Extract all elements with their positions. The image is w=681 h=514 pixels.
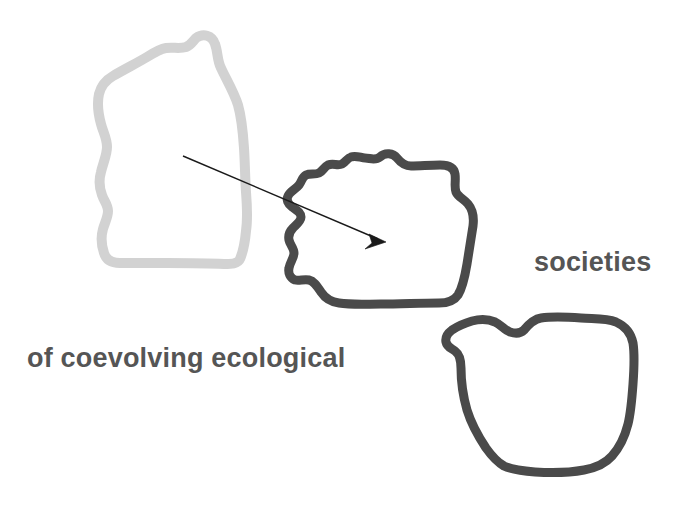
transition-arrow-head [365, 234, 386, 249]
caption-right: societies [534, 249, 651, 276]
light-blob-outline [98, 35, 247, 264]
dark-blob-center-outline [287, 154, 473, 305]
dark-blob-lower-right-outline [446, 317, 634, 473]
caption-left: of coevolving ecological [27, 345, 345, 372]
figure-canvas: of coevolving ecological societies [0, 0, 681, 514]
transition-arrow-line [183, 156, 378, 239]
